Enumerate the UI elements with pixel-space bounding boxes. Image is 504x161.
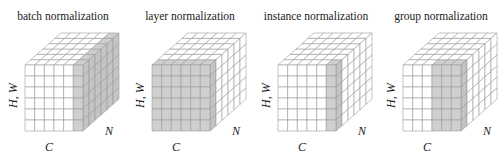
axis-label-hw: H, W [259,83,274,108]
axis-label-n: N [358,124,366,139]
panel-layer-normalization: layer normalization H, W C N [127,0,253,161]
axis-label-n: N [105,124,113,139]
panel-group-normalization: group normalization H, W C N [378,0,504,161]
panel-instance-normalization: instance normalization H, W C N [253,0,379,161]
axis-label-n: N [232,124,240,139]
axis-label-c: C [423,140,431,155]
axis-label-hw: H, W [133,83,148,108]
axis-label-hw: H, W [384,83,399,108]
axis-label-c: C [45,140,53,155]
axis-label-c: C [172,140,180,155]
axis-label-hw: H, W [6,83,21,108]
axis-label-n: N [483,124,491,139]
axis-label-c: C [298,140,306,155]
panel-batch-normalization: batch normalization H, W C N [0,0,126,161]
